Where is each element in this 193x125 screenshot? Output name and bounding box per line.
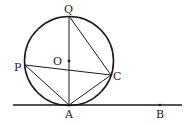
- label-o: O: [53, 55, 62, 68]
- segment-qc: [69, 16, 111, 75]
- geometry-diagram: Q P O C A B: [0, 0, 193, 125]
- point-b-dot: [159, 104, 162, 107]
- label-a: A: [64, 108, 74, 121]
- segment-pc: [25, 65, 111, 75]
- label-b: B: [156, 108, 164, 121]
- label-c: C: [113, 70, 121, 83]
- label-p: P: [14, 61, 22, 74]
- label-q: Q: [64, 3, 73, 16]
- center-point-o: [68, 60, 71, 63]
